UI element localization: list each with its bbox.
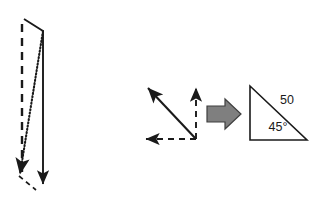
canvas-background xyxy=(0,0,318,206)
hypotenuse-label: 50 xyxy=(280,93,294,107)
vector-resolution-figure: 50 45° xyxy=(0,0,318,206)
angle-label: 45° xyxy=(269,120,288,134)
